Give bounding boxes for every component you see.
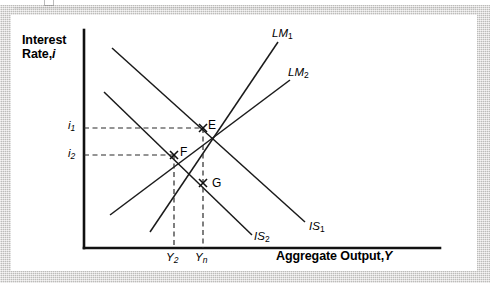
x-axis-title-symbol: Y — [384, 249, 392, 263]
curve-label-is1-sub: 1 — [320, 224, 325, 234]
y-tick-label-i1: i1 — [68, 119, 75, 132]
x-tick-label-yn-sub: n — [203, 255, 208, 265]
y-tick-label-i1-sub: 1 — [71, 123, 76, 133]
y-axis-title-line1: Interest — [22, 33, 66, 47]
curve-label-lm2-sub: 2 — [304, 70, 309, 80]
curve-label-lm2: LM2 — [288, 66, 309, 79]
curve-label-is2-base: IS — [254, 230, 265, 242]
y-axis-title-line2: Rate, — [22, 47, 52, 61]
curve-label-is2-sub: 2 — [265, 234, 270, 244]
y-tick-label-i2: i2 — [68, 147, 75, 160]
curve-is1 — [112, 48, 305, 222]
y-axis-title-line2-wrap: Rate,i — [22, 47, 66, 61]
curve-lm2 — [110, 80, 290, 215]
curve-label-lm1: LM1 — [272, 27, 293, 40]
x-axis-title-text: Aggregate Output, — [276, 249, 384, 263]
curve-label-lm2-base: LM — [288, 66, 304, 78]
x-tick-label-yn-base: Y — [195, 251, 203, 263]
is-lm-plot — [0, 0, 490, 287]
x-tick-label-y2-base: Y — [166, 251, 174, 263]
curve-label-lm1-base: LM — [272, 27, 288, 39]
curve-label-is1: IS1 — [309, 220, 325, 233]
x-tick-label-y2-sub: 2 — [174, 255, 179, 265]
y-tick-label-i2-sub: 2 — [71, 151, 76, 161]
curve-label-is2: IS2 — [254, 230, 270, 243]
point-label-e: E — [208, 119, 216, 132]
point-label-f: F — [180, 146, 187, 159]
x-tick-label-yn: Yn — [195, 251, 207, 264]
figure-root: Interest Rate,i Aggregate Output,Y LM1 L… — [0, 0, 490, 287]
x-tick-label-y2: Y2 — [166, 251, 178, 264]
point-label-g: G — [212, 177, 221, 190]
curve-label-is1-base: IS — [309, 220, 320, 232]
y-axis-title-symbol: i — [52, 47, 55, 61]
curve-label-lm1-sub: 1 — [288, 31, 293, 41]
x-axis-title: Aggregate Output,Y — [276, 249, 392, 263]
y-axis-title: Interest Rate,i — [22, 33, 66, 61]
